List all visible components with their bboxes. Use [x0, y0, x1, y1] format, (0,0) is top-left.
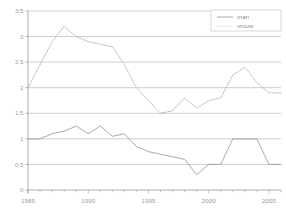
x-axis-tick-labels: 19851990199520002005	[21, 197, 276, 204]
y-axis-tick-label: 2	[20, 84, 24, 91]
x-axis-tick-label: 1990	[81, 197, 95, 204]
line-chart: 3,532,521,510,50 19851990199520002005 ma…	[0, 0, 286, 216]
x-axis-tick-label: 2005	[262, 197, 276, 204]
gridlines	[28, 11, 281, 190]
y-axis-tick-label: 0	[20, 186, 24, 193]
y-axis-tick-label: 1	[20, 135, 24, 142]
y-axis-tick-labels: 3,532,521,510,50	[15, 7, 24, 193]
x-axis-ticks	[28, 190, 281, 194]
x-axis-tick-label: 2000	[202, 197, 216, 204]
data-series	[28, 26, 281, 174]
y-axis-tick-label: 1,5	[15, 109, 24, 116]
chart-canvas: 3,532,521,510,50 19851990199520002005 ma…	[0, 0, 286, 216]
legend-label-vrouw: vrouw	[237, 22, 254, 29]
y-axis-tick-label: 2,5	[15, 58, 24, 65]
series-line-man	[28, 126, 281, 175]
y-axis-tick-label: 3,5	[15, 7, 24, 14]
y-axis-tick-label: 3	[20, 33, 24, 40]
y-axis-tick-label: 0,5	[15, 161, 24, 168]
series-line-vrouw	[28, 26, 281, 113]
legend-label-man: man	[237, 13, 250, 20]
x-axis-tick-label: 1985	[21, 197, 35, 204]
chart-legend: manvrouw	[211, 10, 281, 31]
axes	[26, 11, 29, 193]
x-axis-tick-label: 1995	[142, 197, 156, 204]
